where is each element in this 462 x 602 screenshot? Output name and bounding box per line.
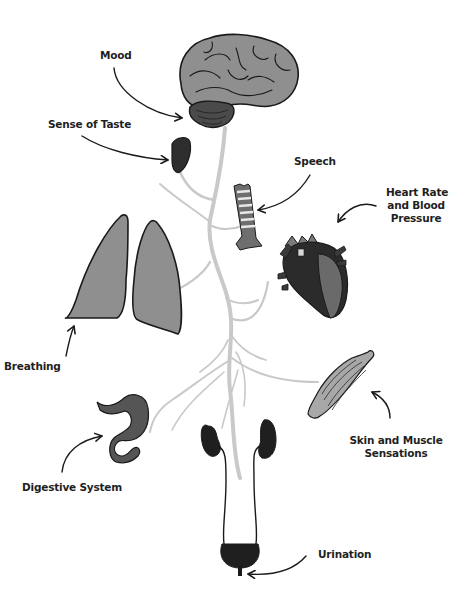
larynx-illustration [234, 184, 262, 250]
arrow-speech [258, 175, 310, 210]
brain-illustration [180, 34, 298, 127]
label-heart-rate-blood-pressure: Heart Rate and Blood Pressure [386, 186, 446, 225]
arrow-heart [338, 204, 376, 222]
label-mood: Mood [100, 49, 132, 62]
label-breathing: Breathing [4, 360, 61, 373]
lungs-illustration [65, 215, 181, 334]
label-speech: Speech [294, 155, 336, 168]
label-digestive-system: Digestive System [22, 481, 122, 494]
label-heart-line-3: Pressure [386, 212, 446, 225]
heart-illustration [278, 234, 348, 318]
vagus-nerve-diagram [0, 0, 462, 602]
tongue-illustration [172, 138, 191, 173]
arrow-breathing [66, 326, 74, 356]
label-heart-line-1: Heart Rate [386, 186, 446, 199]
arrow-digestive [62, 436, 102, 472]
arrow-mood [114, 68, 182, 118]
stomach-illustration [97, 395, 148, 463]
arrow-skin [372, 392, 390, 418]
label-skin-line-1: Skin and Muscle [346, 434, 446, 447]
muscle-illustration [308, 351, 374, 418]
label-sense-of-taste: Sense of Taste [48, 118, 131, 131]
arrow-taste [82, 136, 168, 160]
label-skin-and-muscle: Skin and Muscle Sensations [346, 434, 446, 460]
label-urination: Urination [318, 548, 371, 561]
label-heart-line-2: and Blood [386, 199, 446, 212]
urinary-system-illustration [201, 420, 276, 576]
label-skin-line-2: Sensations [346, 447, 446, 460]
